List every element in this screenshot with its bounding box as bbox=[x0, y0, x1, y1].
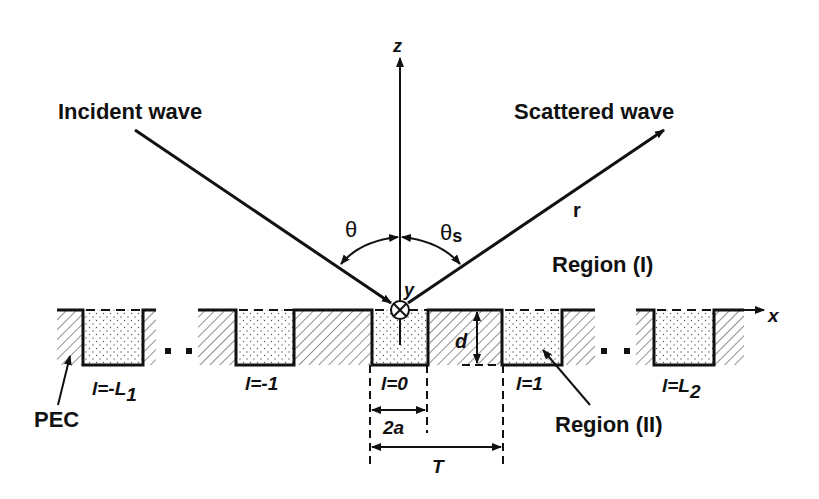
groove-l-minus-L1 bbox=[83, 310, 143, 365]
d-label: d bbox=[455, 330, 468, 352]
pec-label: PEC bbox=[34, 407, 79, 432]
scattered-wave-arrow bbox=[408, 130, 664, 303]
pec-block bbox=[198, 310, 236, 365]
pec-block bbox=[714, 310, 744, 365]
y-axis-label: y bbox=[403, 280, 415, 300]
groove-label-l-1: l=1 bbox=[516, 373, 543, 394]
groove-l-L2 bbox=[654, 310, 714, 365]
theta-label: θ bbox=[345, 217, 357, 242]
region-1-label: Region (I) bbox=[552, 252, 653, 277]
pec-block bbox=[294, 310, 372, 365]
r-label: r bbox=[573, 199, 581, 221]
two-a-label: 2a bbox=[382, 417, 405, 438]
groove-label-l-L2: l=L2 bbox=[662, 375, 701, 402]
theta-s-label: θs bbox=[440, 220, 462, 246]
x-axis-label: x bbox=[767, 305, 780, 326]
groove-l-minus-1 bbox=[236, 310, 294, 365]
ellipsis-left bbox=[165, 348, 192, 354]
pec-block bbox=[636, 310, 654, 365]
groove-label-l-minus-1: l=-1 bbox=[245, 373, 278, 394]
y-axis-into-page-icon bbox=[391, 301, 409, 319]
region-2-label: Region (II) bbox=[555, 412, 663, 437]
T-label: T bbox=[432, 456, 445, 477]
grating-scattering-diagram: x z y Incident wave Scattered wave r θ θ… bbox=[0, 0, 819, 499]
groove-label-l-0: l=0 bbox=[381, 373, 408, 394]
scattered-wave-label: Scattered wave bbox=[514, 99, 674, 124]
ellipsis-right bbox=[601, 348, 630, 354]
pec-block bbox=[143, 310, 156, 365]
groove-l-1 bbox=[502, 310, 562, 365]
groove-label-l-minus-L1: l=-L1 bbox=[92, 378, 137, 405]
z-axis-label: z bbox=[392, 36, 402, 56]
incident-wave-label: Incident wave bbox=[58, 99, 202, 124]
pec-block bbox=[562, 310, 595, 365]
